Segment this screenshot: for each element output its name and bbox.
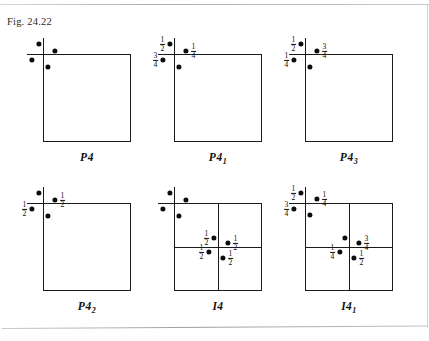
height-fraction-label: 34 [153, 52, 159, 68]
vertical-axis-line [43, 187, 44, 291]
equivalent-position-dot [160, 206, 165, 211]
panel-label-subscript: 1 [223, 157, 228, 166]
panel-label-subscript: 3 [354, 157, 359, 166]
page-frame: Fig. 24.22 P4121434P41123414P431212P4212… [0, 0, 429, 341]
height-fraction-label: 12 [60, 192, 66, 208]
equivalent-position-dot [167, 190, 172, 195]
height-fraction-label: 14 [191, 43, 197, 59]
vertical-axis-line [43, 38, 44, 142]
page-border-bottom [2, 325, 427, 329]
vertical-axis-line [174, 38, 175, 142]
equivalent-position-dot [183, 48, 188, 53]
equivalent-position-dot [291, 206, 296, 211]
panel-label-i41: I41 [341, 300, 357, 315]
equivalent-position-dot [298, 190, 303, 195]
height-fraction-label: 14 [284, 52, 290, 68]
equivalent-position-dot [29, 206, 34, 211]
height-fraction-label: 34 [364, 235, 370, 251]
height-fraction-label: 14 [330, 244, 336, 260]
unit-cell-square [305, 54, 393, 142]
panel-label-p42: P42 [78, 300, 96, 315]
height-fraction-label: 12 [199, 244, 205, 260]
panel-label-p41: P41 [209, 151, 227, 166]
height-fraction-label: 12 [359, 250, 365, 266]
equivalent-position-dot [36, 41, 41, 46]
equivalent-position-dot [183, 197, 188, 202]
panel-label-i4: I4 [212, 300, 223, 312]
vertical-axis-line [305, 187, 306, 291]
unit-cell-square [43, 203, 131, 291]
height-fraction-label: 14 [322, 191, 328, 207]
panel-label-subscript: 1 [352, 306, 357, 315]
page-border-right [427, 4, 428, 328]
unit-cell-square [174, 54, 262, 142]
page-border-top [0, 4, 429, 5]
equivalent-position-dot [29, 57, 34, 62]
equivalent-position-dot [52, 48, 57, 53]
equivalent-position-dot [291, 57, 296, 62]
height-fraction-label: 12 [291, 185, 297, 201]
panel-label-p4: P4 [80, 151, 94, 163]
vertical-axis-line [174, 187, 175, 291]
height-fraction-label: 12 [228, 250, 234, 266]
height-fraction-label: 12 [22, 201, 28, 217]
cell-divider-vertical [349, 203, 350, 291]
panel-label-p43: P43 [340, 151, 358, 166]
height-fraction-label: 12 [204, 230, 210, 246]
equivalent-position-dot [36, 190, 41, 195]
height-fraction-label: 12 [160, 36, 166, 52]
equivalent-position-dot [314, 48, 319, 53]
equivalent-position-dot [314, 196, 319, 201]
height-fraction-label: 12 [233, 235, 239, 251]
height-fraction-label: 12 [291, 36, 297, 52]
panel-label-subscript: 2 [92, 306, 97, 315]
height-fraction-label: 34 [322, 43, 328, 59]
cell-divider-vertical [218, 203, 219, 291]
unit-cell-square [43, 54, 131, 142]
equivalent-position-dot [167, 41, 172, 46]
figure-caption: Fig. 24.22 [7, 16, 52, 27]
vertical-axis-line [305, 38, 306, 142]
equivalent-position-dot [298, 41, 303, 46]
height-fraction-label: 34 [284, 201, 290, 217]
equivalent-position-dot [52, 197, 57, 202]
equivalent-position-dot [160, 57, 165, 62]
